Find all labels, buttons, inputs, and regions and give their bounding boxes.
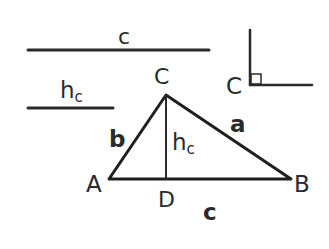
vertex-a-label: A [86,171,102,197]
side-c-label: c [203,199,217,225]
point-d-label: D [158,187,175,212]
segment-c-label: c [118,24,130,49]
right-angle-vertex-label: C [226,73,242,99]
triangle-abc: C A B D b a c hc [86,64,310,225]
vertex-b-label: B [294,171,310,197]
segment-c: c [28,24,209,50]
vertex-c-label: C [154,64,169,89]
side-b-label: b [109,126,125,152]
altitude-hc-label: hc [172,129,195,158]
right-angle-figure: C [226,30,312,99]
segment-hc-label: hc [60,77,83,106]
side-a-label: a [230,111,246,137]
triangle-outline [109,95,291,179]
right-angle-marker-icon [251,74,261,84]
geometry-diagram: c hc C C A B D b a c hc [0,0,329,249]
segment-hc: hc [28,77,113,108]
